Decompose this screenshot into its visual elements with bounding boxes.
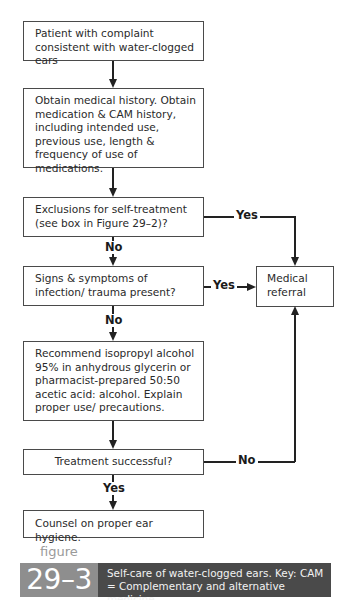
arrow-up-icon — [291, 306, 299, 315]
edge-label-success-no: No — [236, 454, 258, 467]
edge-label-success-yes: Yes — [102, 482, 126, 495]
figure-number: 29–3 — [20, 563, 98, 597]
arrow-down-icon — [109, 501, 117, 510]
node-exclusions: Exclusions for self-treatment (see box i… — [23, 197, 204, 237]
connector-success-no-up — [294, 314, 296, 462]
arrow-down-icon — [109, 188, 117, 197]
arrow-right-icon — [247, 283, 256, 291]
node-counsel: Counsel on proper ear hygiene. — [23, 510, 204, 538]
arrow-down-icon — [291, 257, 299, 266]
node-success: Treatment successful? — [23, 449, 204, 475]
node-infection: Signs & symptoms of infection/ trauma pr… — [23, 266, 204, 306]
node-referral: Medical referral — [256, 266, 334, 307]
connector-history-exclusions — [112, 168, 114, 189]
edge-label-exclusions-no: No — [104, 241, 124, 254]
node-recommend: Recommend isopropyl alcohol 95% in anhyd… — [23, 341, 204, 421]
figure-word: figure — [40, 544, 78, 559]
arrow-down-icon — [109, 79, 117, 88]
edge-label-exclusions-yes: Yes — [234, 209, 260, 222]
connector-start-history — [112, 61, 114, 80]
arrow-down-icon — [109, 332, 117, 341]
node-history: Obtain medical history. Obtain medicatio… — [23, 88, 204, 168]
edge-label-infection-no: No — [104, 314, 124, 327]
connector-recommend-success — [112, 421, 114, 441]
node-start: Patient with complaint consistent with w… — [23, 21, 204, 61]
arrow-down-icon — [109, 440, 117, 449]
connector-exclusions-yes-down — [294, 216, 296, 258]
edge-label-infection-yes: Yes — [211, 279, 237, 292]
arrow-down-icon — [109, 257, 117, 266]
figure-caption: Self-care of water-clogged ears. Key: CA… — [98, 563, 331, 597]
